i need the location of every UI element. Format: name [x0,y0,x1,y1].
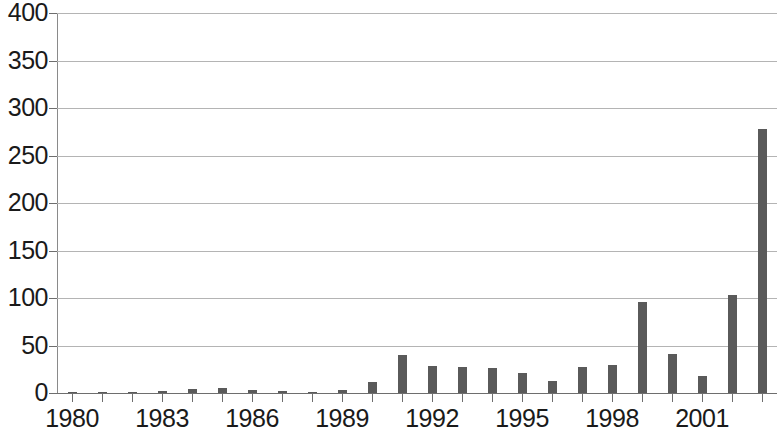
x-axis-tick [552,394,553,402]
plot-area [57,13,777,393]
y-axis-tick-label: 50 [0,333,48,358]
bar [638,302,647,393]
y-axis-tick-label: 300 [0,95,48,120]
bar [338,390,347,393]
x-axis-tick [372,394,373,402]
bar [758,129,767,393]
x-axis-tick [222,394,223,402]
x-axis-tick [72,394,73,402]
x-axis-tick-label: 2001 [642,404,762,432]
bar [578,367,587,393]
bar-chart: 050100150200250300350400 198019831986198… [0,0,777,442]
x-axis-tick [252,394,253,402]
y-axis-tick-label: 400 [0,0,48,25]
x-axis-tick [522,394,523,402]
axis-baseline [57,393,777,394]
x-axis-tick [102,394,103,402]
x-axis-tick [492,394,493,402]
x-axis-tick [672,394,673,402]
x-axis-tick [642,394,643,402]
x-axis-tick [192,394,193,402]
x-axis-tick [282,394,283,402]
y-axis-tick-label: 0 [0,380,48,405]
bar [608,365,617,394]
x-axis-tick [462,394,463,402]
x-axis-tick [702,394,703,402]
x-axis-tick [732,394,733,402]
x-axis-tick [582,394,583,402]
x-axis-tick [312,394,313,402]
bar [68,392,77,394]
bar [458,367,467,393]
bar [728,295,737,393]
bar [188,389,197,393]
y-axis-tick-label: 100 [0,285,48,310]
bar [158,391,167,393]
x-axis-tick [342,394,343,402]
x-axis-tick [432,394,433,402]
x-axis-tick [132,394,133,402]
x-axis-tick [162,394,163,402]
bar [518,373,527,393]
bar [308,392,317,394]
bar [248,390,257,393]
bar [128,392,137,394]
bars [57,13,777,393]
bar [368,382,377,393]
bar [218,388,227,393]
x-axis-tick [612,394,613,402]
bar [398,355,407,393]
bar [698,376,707,393]
y-axis-tick-label: 200 [0,190,48,215]
bar [278,391,287,393]
bar [98,392,107,394]
bar [428,366,437,393]
bar [488,368,497,393]
bar [668,354,677,393]
y-axis-tick-label: 350 [0,48,48,73]
bar [548,381,557,393]
x-axis-tick [402,394,403,402]
x-axis-tick [762,394,763,402]
y-axis-tick-label: 150 [0,238,48,263]
y-axis-tick-label: 250 [0,143,48,168]
